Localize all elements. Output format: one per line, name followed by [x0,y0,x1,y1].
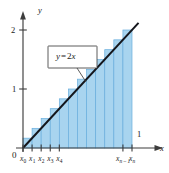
x-tick-label: xn – 1 [116,155,130,163]
riemann-rectangle [87,69,96,148]
x-tick-label: xn [129,155,135,163]
riemann-rectangle [114,40,123,148]
x-tick-label: x0 [20,155,26,163]
riemann-sum-figure: y x 2 1 0 1 y=2x x0x1x2x3x4xn – 1xn [0,0,169,173]
riemann-rectangle [96,60,105,149]
x-tick-label: x2 [38,155,44,163]
x-tick-label-subscript: 3 [51,158,54,164]
x-tick-label-base: x [129,154,132,163]
x-tick-label-subscript: 4 [60,158,63,164]
x-tick-label: x3 [47,155,53,163]
figure-canvas [0,0,169,173]
x-endpoint-label-1: 1 [137,130,141,139]
origin-label: 0 [12,151,17,160]
x-tick-label-subscript: 0 [24,158,27,164]
callout-label-y-equals-2x: y=2x [56,52,76,61]
riemann-rectangle [78,79,87,148]
y-tick-label-2: 2 [11,26,15,35]
x-tick-label: x4 [56,155,62,163]
x-tick-label: x1 [29,155,35,163]
y-axis-arrowhead [20,11,26,20]
riemann-rectangle [105,50,114,148]
riemann-rectangle [123,30,132,148]
x-tick-label-base: x [20,154,23,163]
x-tick-label-subscript: n [133,158,136,164]
x-tick-label-base: x [29,154,32,163]
x-axis-label: x [160,144,164,153]
x-tick-label-subscript: 1 [33,158,36,164]
y-axis-label: y [38,6,42,15]
callout-variable-x: x [72,51,76,61]
y-tick-label-1: 1 [12,85,16,94]
